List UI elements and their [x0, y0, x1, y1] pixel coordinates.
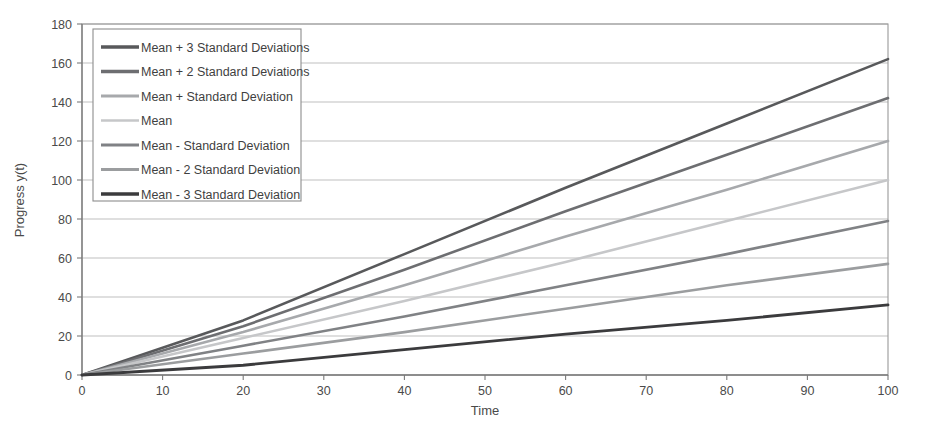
- y-tick-label: 80: [58, 213, 72, 227]
- chart-container: 020406080100120140160180 010203040506070…: [0, 0, 935, 436]
- y-tick-label: 160: [51, 57, 72, 71]
- x-tick-label: 30: [317, 384, 331, 398]
- chart-legend[interactable]: Mean + 3 Standard DeviationsMean + 2 Sta…: [93, 29, 310, 202]
- x-tick-label: 80: [720, 384, 734, 398]
- y-tick-label: 0: [65, 369, 72, 383]
- x-tick-label: 70: [639, 384, 653, 398]
- x-tick-label: 50: [478, 384, 492, 398]
- y-tick-label: 120: [51, 135, 72, 149]
- x-tick-label: 90: [800, 384, 814, 398]
- legend-item-label[interactable]: Mean + 2 Standard Deviations: [141, 65, 310, 79]
- x-tick-label: 60: [559, 384, 573, 398]
- legend-item-label[interactable]: Mean + 3 Standard Deviations: [141, 41, 310, 55]
- legend-item-label[interactable]: Mean + Standard Deviation: [141, 90, 293, 104]
- x-tick-label: 100: [878, 384, 899, 398]
- x-axis-title: Time: [471, 403, 499, 418]
- y-tick-label: 180: [51, 18, 72, 32]
- line-chart: 020406080100120140160180 010203040506070…: [0, 0, 935, 436]
- legend-item-label[interactable]: Mean - 2 Standard Deviation: [141, 163, 300, 177]
- legend-item-label[interactable]: Mean - Standard Deviation: [141, 139, 290, 153]
- x-tick-label: 20: [236, 384, 250, 398]
- y-tick-label: 60: [58, 252, 72, 266]
- x-tick-label: 40: [397, 384, 411, 398]
- legend-item-label[interactable]: Mean - 3 Standard Deviation: [141, 188, 300, 202]
- y-axis-ticks: 020406080100120140160180: [51, 18, 82, 383]
- y-tick-label: 40: [58, 291, 72, 305]
- y-tick-label: 20: [58, 330, 72, 344]
- y-axis-title: Progress y(t): [12, 163, 27, 237]
- y-tick-label: 140: [51, 96, 72, 110]
- x-axis-ticks: 0102030405060708090100: [79, 375, 899, 398]
- y-tick-label: 100: [51, 174, 72, 188]
- legend-item-label[interactable]: Mean: [141, 114, 172, 128]
- x-tick-label: 0: [79, 384, 86, 398]
- x-tick-label: 10: [156, 384, 170, 398]
